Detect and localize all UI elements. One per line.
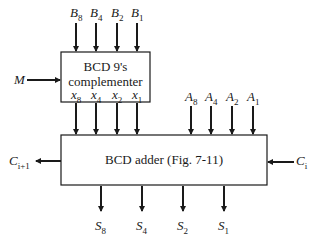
output-label-x8: x8 [71, 88, 81, 107]
adder-title: BCD adder (Fig. 7-11) [61, 152, 267, 167]
input-label-b2: B2 [111, 6, 123, 25]
diagram-lines [0, 0, 316, 242]
input-label-b4: B4 [90, 6, 102, 25]
output-label-x2: x2 [112, 88, 122, 107]
sum-label-s4: S4 [136, 219, 147, 238]
input-label-a2: A2 [226, 90, 238, 109]
complementer-title: BCD 9's complementer [61, 59, 150, 89]
control-label-m: M [14, 73, 25, 86]
output-label-x1: x1 [132, 88, 142, 107]
input-label-a8: A8 [185, 90, 197, 109]
input-label-b1: B1 [131, 6, 143, 25]
sum-label-s1: S1 [218, 219, 229, 238]
carry-in-label: Ci [296, 154, 307, 173]
output-label-x4: x4 [91, 88, 101, 107]
sum-label-s8: S8 [95, 219, 106, 238]
sum-label-s2: S2 [177, 219, 188, 238]
complementer-title-line1: BCD 9's [61, 59, 150, 74]
input-label-a4: A4 [205, 90, 217, 109]
carry-out-label: Ci+1 [9, 154, 30, 173]
input-label-b8: B8 [70, 6, 82, 25]
input-label-a1: A1 [247, 90, 259, 109]
